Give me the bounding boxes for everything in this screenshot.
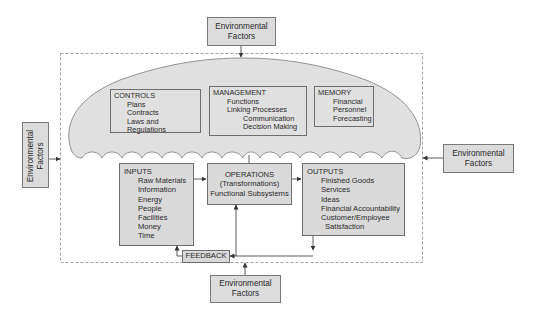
env-bottom-line2: Factors: [232, 289, 259, 299]
management-subitem: Decision Making: [213, 123, 303, 132]
inputs-box: INPUTS Raw Materials Information Energy …: [119, 163, 194, 246]
feedback-box: FEEDBACK: [182, 250, 230, 263]
outputs-item: Customer/Employee: [307, 213, 400, 222]
outputs-item: Services: [307, 185, 400, 194]
operations-subtitle: (Transformations): [210, 179, 289, 188]
inputs-item: Information: [124, 185, 189, 194]
memory-item: Forecasting: [318, 115, 370, 124]
env-left-line1: Environmental: [26, 130, 36, 182]
outputs-box: OUTPUTS Finished Goods Services Ideas Fi…: [302, 163, 405, 236]
controls-item: Laws and Regulations: [114, 118, 197, 135]
outputs-item-continuation: Satisfaction: [307, 222, 400, 231]
feedback-label: FEEDBACK: [186, 251, 227, 260]
inputs-item: People: [124, 204, 189, 213]
memory-box: MEMORY Financial Personnel Forecasting: [314, 86, 374, 127]
inputs-item: Time: [124, 231, 189, 240]
env-right-line1: Environmental: [452, 149, 504, 159]
controls-box: CONTROLS Plans Contracts Laws and Regula…: [110, 89, 201, 133]
environmental-factors-left: Environmental Factors: [22, 122, 49, 188]
inputs-item: Money: [124, 222, 189, 231]
inputs-title: INPUTS: [124, 167, 189, 176]
env-left-line2: Factors: [36, 142, 46, 169]
inputs-item: Raw Materials: [124, 176, 189, 185]
env-bottom-line1: Environmental: [219, 279, 271, 289]
operations-subsystems: Functional Subsystems: [210, 189, 289, 198]
env-top-line2: Factors: [228, 32, 255, 42]
inputs-item: Energy: [124, 195, 189, 204]
management-box: MANAGEMENT Functions Linking Processes C…: [209, 86, 307, 136]
operations-box: OPERATIONS (Transformations) Functional …: [207, 163, 292, 205]
outputs-item: Ideas: [307, 195, 400, 204]
operations-title: OPERATIONS: [210, 170, 289, 179]
environmental-factors-right: Environmental Factors: [443, 144, 514, 173]
env-right-line2: Factors: [465, 159, 492, 169]
env-top-line1: Environmental: [215, 22, 267, 32]
outputs-item: Finished Goods: [307, 176, 400, 185]
outputs-item: Financial Accountability: [307, 204, 400, 213]
environmental-factors-bottom: Environmental Factors: [210, 275, 281, 303]
inputs-item: Facilities: [124, 213, 189, 222]
outputs-title: OUTPUTS: [307, 167, 400, 176]
environmental-factors-top: Environmental Factors: [207, 17, 276, 46]
